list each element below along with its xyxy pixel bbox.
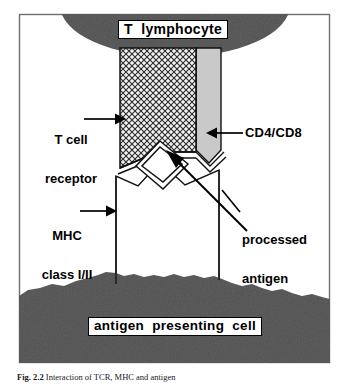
label-antigen-presenting-cell: antigen presenting cell bbox=[88, 317, 262, 336]
label-t-lymphocyte: T lymphocyte bbox=[118, 20, 228, 39]
label-mhc-line1: MHC bbox=[27, 229, 107, 242]
label-t-cell-receptor-line1: T cell bbox=[32, 133, 110, 146]
cd4-cd8-column bbox=[196, 48, 221, 163]
label-t-cell-receptor-line2: receptor bbox=[32, 172, 110, 185]
caption-figure-number: Fig. 2.2 bbox=[17, 372, 44, 382]
label-processed-antigen: processed antigen bbox=[242, 206, 307, 312]
caption-text: Interaction of TCR, MHC and antigen bbox=[46, 372, 176, 382]
label-processed-antigen-line2: antigen bbox=[242, 272, 307, 285]
label-mhc-line2: class I/II bbox=[27, 268, 107, 281]
label-cd4-cd8: CD4/CD8 bbox=[245, 126, 302, 139]
figure-container: T lymphocyte T cell receptor CD4/CD8 MHC… bbox=[0, 0, 344, 384]
label-mhc-class: MHC class I/II bbox=[27, 202, 107, 308]
figure-caption: Fig. 2.2 Interaction of TCR, MHC and ant… bbox=[17, 372, 337, 384]
label-t-cell-receptor: T cell receptor bbox=[32, 106, 110, 212]
label-processed-antigen-line1: processed bbox=[242, 233, 307, 246]
